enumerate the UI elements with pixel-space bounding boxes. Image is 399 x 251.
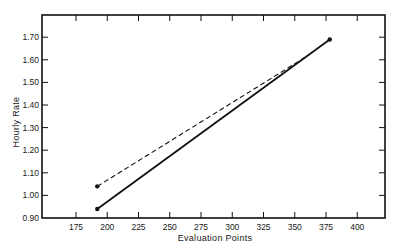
x-tick-label: 375 — [319, 222, 333, 232]
data-series — [95, 37, 332, 211]
x-axis-tick-labels: 175200225250275300325350375400 — [69, 222, 365, 232]
x-tick-label: 400 — [350, 222, 364, 232]
data-point-marker — [95, 207, 99, 211]
y-tick-label: 1.60 — [22, 55, 39, 65]
dashed-line — [97, 58, 305, 187]
x-axis-ticks — [76, 15, 357, 218]
x-tick-label: 325 — [256, 222, 270, 232]
x-tick-label: 275 — [194, 222, 208, 232]
x-tick-label: 225 — [131, 222, 145, 232]
y-tick-label: 1.00 — [22, 190, 39, 200]
y-tick-label: 0.90 — [22, 213, 39, 223]
x-tick-label: 200 — [100, 222, 114, 232]
y-tick-label: 1.50 — [22, 77, 39, 87]
x-tick-label: 175 — [69, 222, 83, 232]
y-axis-tick-labels: 0.901.001.101.201.301.401.501.601.70 — [22, 32, 39, 223]
y-tick-label: 1.20 — [22, 145, 39, 155]
data-point-marker — [328, 37, 332, 41]
data-point-marker — [95, 184, 99, 188]
x-axis-title: Evaluation Points — [178, 233, 253, 243]
x-tick-label: 300 — [225, 222, 239, 232]
y-tick-label: 1.30 — [22, 123, 39, 133]
x-tick-label: 350 — [288, 222, 302, 232]
x-tick-label: 250 — [163, 222, 177, 232]
y-tick-label: 1.10 — [22, 168, 39, 178]
y-axis-title: Hourly Rate — [11, 97, 21, 148]
y-tick-label: 1.70 — [22, 32, 39, 42]
y-axis-ticks — [42, 37, 385, 195]
y-tick-label: 1.40 — [22, 100, 39, 110]
line-chart: 175200225250275300325350375400 0.901.001… — [0, 0, 399, 251]
plot-frame — [42, 15, 385, 218]
solid-line — [97, 39, 330, 209]
